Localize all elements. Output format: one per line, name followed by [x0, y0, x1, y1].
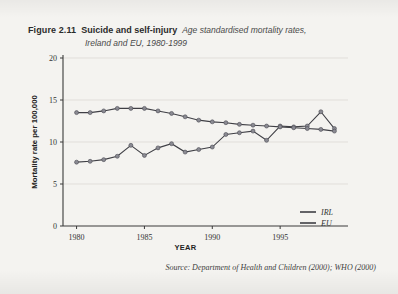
data-point-irl	[88, 159, 92, 163]
data-point-irl	[224, 132, 228, 136]
data-point-irl	[319, 110, 323, 114]
x-axis-tick-label: 1990	[204, 233, 220, 242]
x-axis-title: YEAR	[174, 243, 196, 252]
series-line-irl	[77, 112, 335, 162]
data-point-eu	[88, 111, 92, 115]
data-point-irl	[142, 153, 146, 157]
y-axis-tick-label: 15	[49, 96, 57, 105]
x-axis-tick-label: 1995	[272, 233, 288, 242]
data-point-irl	[115, 154, 119, 158]
data-point-eu	[332, 129, 336, 133]
y-axis-tick-label: 20	[49, 54, 57, 63]
data-point-irl	[237, 131, 241, 135]
y-axis-title: Mortality rate per 100,000	[30, 95, 39, 189]
data-point-irl	[156, 146, 160, 150]
data-point-eu	[156, 109, 160, 113]
data-point-irl	[210, 145, 214, 149]
data-point-eu	[319, 127, 323, 131]
data-point-irl	[251, 129, 255, 133]
x-axis-tick-label: 1985	[136, 233, 152, 242]
data-point-eu	[224, 121, 228, 125]
legend-label-irl: IRL	[320, 208, 334, 217]
data-point-eu	[305, 127, 309, 131]
data-point-eu	[102, 109, 106, 113]
data-point-eu	[142, 106, 146, 110]
data-point-eu	[170, 111, 174, 115]
y-axis-tick-label: 10	[49, 138, 57, 147]
data-point-irl	[183, 150, 187, 154]
figure-page: Figure 2.11Suicide and self-injuryAge st…	[0, 0, 398, 294]
y-axis-tick-label: 5	[53, 180, 57, 189]
data-point-irl	[129, 143, 133, 147]
data-point-eu	[251, 123, 255, 127]
data-point-eu	[129, 106, 133, 110]
y-axis-tick-label: 0	[53, 222, 57, 231]
source-note: Source: Department of Health and Childre…	[166, 263, 376, 272]
data-point-irl	[197, 148, 201, 152]
data-point-eu	[278, 125, 282, 129]
data-point-irl	[75, 160, 79, 164]
data-point-eu	[183, 115, 187, 119]
data-point-eu	[237, 122, 241, 126]
data-point-eu	[197, 118, 201, 122]
data-point-irl	[102, 158, 106, 162]
line-chart: 051015201980198519901995YEARMortality ra…	[0, 0, 398, 294]
data-point-eu	[75, 111, 79, 115]
x-axis-tick-label: 1980	[69, 233, 85, 242]
data-point-eu	[115, 106, 119, 110]
data-point-irl	[170, 142, 174, 146]
data-point-irl	[265, 138, 269, 142]
data-point-eu	[210, 120, 214, 124]
data-point-eu	[292, 126, 296, 130]
legend-label-eu: EU	[320, 219, 333, 228]
data-point-eu	[265, 124, 269, 128]
